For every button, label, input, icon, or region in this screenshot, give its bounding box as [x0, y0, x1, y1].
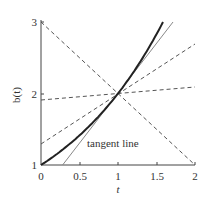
tangent-line-label: tangent line	[87, 137, 139, 149]
y-axis-label: b(t)	[10, 87, 23, 103]
y-tick-label: 2	[32, 88, 38, 100]
x-tick-label: 2	[192, 170, 198, 182]
x-tick-label: 0	[38, 170, 44, 182]
x-axis-label: t	[116, 183, 120, 195]
y-tick-label: 3	[32, 16, 38, 28]
y-tick-label: 1	[32, 159, 38, 171]
chart: 0 0.5 1 1.5 2 1 2 3 t b(t) tangent line	[0, 0, 209, 197]
x-tick-label: 1.5	[150, 170, 164, 182]
x-tick-label: 0.5	[73, 170, 87, 182]
x-tick-label: 1	[115, 170, 121, 182]
